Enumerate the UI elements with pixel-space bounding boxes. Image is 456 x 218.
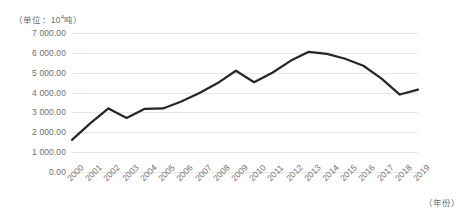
x-axis-tick-label: 2000 [65,162,86,183]
x-axis-tick-label: 2007 [193,162,214,183]
x-axis-tick-label: 2011 [265,163,285,183]
x-axis-tick-label: 2014 [320,162,341,183]
x-axis-tick-label: 2008 [211,162,232,183]
x-axis-tick-label: 2001 [83,162,104,183]
x-axis-tick-label: 2006 [174,162,195,183]
x-axis-tick-label: 2002 [101,162,122,183]
x-axis-tick-label: 2003 [120,162,141,183]
x-axis-tick-label: 2018 [393,162,414,183]
x-axis-tick-label: 2017 [375,162,396,183]
x-axis-tick-labels: 2000200120022003200420052006200720082009… [0,0,456,218]
x-axis-tick-label: 2005 [156,162,177,183]
x-axis-tick-label: 2013 [302,162,323,183]
x-axis-tick-label: 2004 [138,162,159,183]
line-chart: （单位：104吨） 7 000.006 000.005 000.004 000.… [0,0,456,218]
x-axis-title: （年份） [424,196,456,208]
x-axis-tick-label: 2010 [247,162,268,183]
x-axis-tick-label: 2016 [356,162,377,183]
x-axis-tick-label: 2012 [284,162,305,183]
x-axis-tick-label: 2009 [229,162,250,183]
x-axis-tick-label: 2015 [338,162,359,183]
x-axis-tick-label: 2019 [411,162,432,183]
